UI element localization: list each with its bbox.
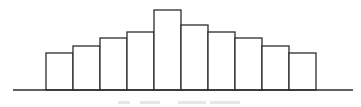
bar-8 (235, 38, 262, 90)
bar-2 (73, 46, 100, 90)
bar-5 (154, 10, 181, 90)
bar-4 (127, 32, 154, 90)
bar-10 (289, 53, 316, 90)
histogram-chart (0, 0, 361, 107)
bar-3 (100, 38, 127, 90)
bars-group (46, 10, 316, 90)
caption-illegible (118, 101, 240, 104)
bar-9 (262, 46, 289, 90)
bar-6 (181, 25, 208, 90)
bar-1 (46, 53, 73, 90)
bar-7 (208, 32, 235, 90)
